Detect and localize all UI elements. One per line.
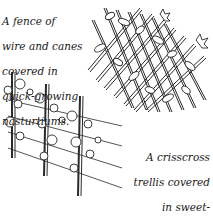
caption-line: wire and canes	[2, 40, 83, 52]
caption-line: trellis covered	[133, 176, 210, 188]
crisscross-trellis-drawing	[88, 8, 206, 112]
garden-structures-illustration: A fence of wire and canes covered in qui…	[0, 0, 213, 216]
fence-caption: A fence of wire and canes covered in qui…	[2, 2, 94, 127]
caption-line: in sweet-	[162, 201, 210, 213]
caption-line: covered in	[2, 65, 58, 77]
trellis-caption: A crisscross trellis covered in sweet- s…	[110, 138, 210, 216]
caption-line: A fence of	[2, 15, 55, 27]
caption-line: A crisscross	[146, 151, 210, 163]
caption-line: nasturtiums.	[2, 115, 69, 127]
caption-line: quick-growing	[2, 90, 78, 102]
